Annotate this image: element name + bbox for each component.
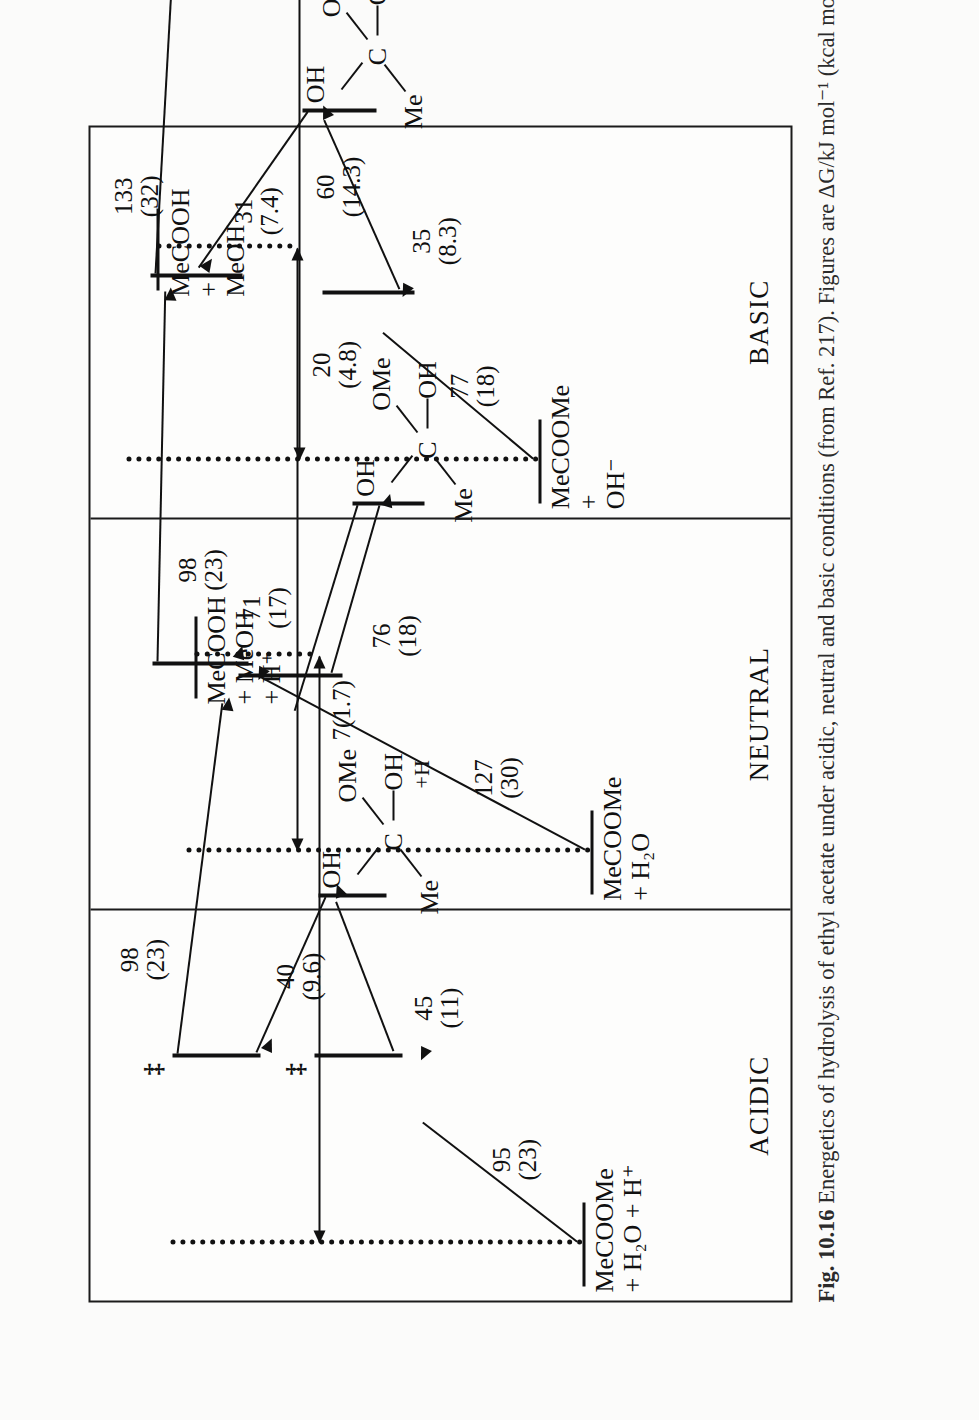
neutral-ts2-level bbox=[152, 661, 248, 665]
acidic-barrier-40: 40 (9.6) bbox=[272, 952, 323, 1000]
neutral-reactant-label: MeCOOMe + H₂O bbox=[598, 776, 653, 900]
basic-bond-c-oh bbox=[340, 61, 363, 89]
acidic-line-ts1-to-intermediate bbox=[335, 901, 394, 1051]
acidic-ts1-level bbox=[314, 1053, 402, 1057]
panel-neutral: MeCOOMe + H₂O 127 (30) 76 (18) bbox=[90, 519, 790, 911]
acidic-ts2-dagger: ‡ bbox=[140, 1063, 165, 1076]
figure-caption: Fig. 10.16 Energetics of hydrolysis of e… bbox=[812, 2, 839, 1302]
neutral-barrier-98: 98 (23) bbox=[174, 549, 225, 591]
panel-title-neutral: NEUTRAL bbox=[743, 519, 774, 909]
basic-reactant-label: MeCOOMe + OH⁻ bbox=[546, 384, 629, 508]
basic-bond-c-ome bbox=[345, 11, 368, 39]
figure-caption-text: Energetics of hydrolysis of ethyl acetat… bbox=[813, 0, 838, 1203]
basic-reactant-dotted-line bbox=[126, 456, 538, 461]
basic-barrier-31: 31 (7.4) bbox=[230, 187, 281, 235]
basic-overall-value: 60 (14.3) bbox=[312, 156, 363, 216]
acidic-barrier-95: 95 (23) bbox=[488, 1138, 539, 1180]
acidic-barrier-45: 45 (11) bbox=[410, 987, 461, 1028]
basic-ts2-level bbox=[150, 273, 242, 277]
basic-intermediate-c: C bbox=[362, 47, 392, 64]
neutral-barrier-76: 76 (18) bbox=[368, 615, 419, 657]
panel-acidic: MeCOOMe + H₂O + H⁺ ‡ 95 (23) 45 bbox=[90, 910, 790, 1300]
basic-intermediate-oh-top: OH bbox=[300, 65, 330, 103]
panel-title-basic: BASIC bbox=[743, 127, 774, 517]
basic-intermediate-o-minus: O– bbox=[362, 0, 392, 5]
acidic-arrow-reactant-to-ts1 bbox=[415, 1045, 431, 1062]
basic-bond-c-me bbox=[383, 63, 406, 91]
basic-barrier-77: 77 (18) bbox=[446, 365, 497, 407]
figure-page: MeCOOMe + H₂O + H⁺ ‡ 95 (23) 45 bbox=[0, 0, 979, 1420]
neutral-arrow-intermediate-to-ts2 bbox=[232, 644, 247, 660]
basic-barrier-35: 35 (8.3) bbox=[408, 217, 459, 265]
basic-arrow-intermediate-to-ts2 bbox=[199, 255, 216, 273]
neutral-reactant-dotted-line bbox=[186, 847, 590, 852]
basic-bond-c-ominus bbox=[376, 5, 378, 35]
panel-basic: MeCOOMe + OH⁻ 77 (18) 35 (8.3) bbox=[90, 127, 790, 519]
figure-frame: MeCOOMe + H₂O + H⁺ ‡ 95 (23) 45 bbox=[88, 125, 792, 1302]
acidic-barrier-98: 98 (23) bbox=[116, 938, 167, 980]
acidic-reactant-dotted-line bbox=[170, 1239, 582, 1244]
neutral-barrier-71: 71 (17) bbox=[238, 587, 289, 629]
basic-barrier-133: 133 (32) bbox=[110, 175, 161, 217]
neutral-barrier-127: 127 (30) bbox=[470, 757, 521, 799]
basic-intermediate-structure: OH C OMe O– Me bbox=[304, 0, 534, 125]
basic-overall-arrow bbox=[298, 0, 300, 459]
figure-number: Fig. 10.16 bbox=[813, 1209, 838, 1302]
basic-intermediate-ome: OMe bbox=[316, 0, 346, 17]
acidic-ts1-dagger: ‡ bbox=[282, 1063, 307, 1076]
panel-title-acidic: ACIDIC bbox=[743, 910, 774, 1300]
basic-intermediate-me: Me bbox=[398, 94, 428, 129]
neutral-line-reactant-to-ts1 bbox=[256, 674, 585, 850]
basic-arrow-reactant-to-ts1 bbox=[397, 282, 414, 299]
acidic-ts2-level bbox=[172, 1053, 260, 1057]
basic-line-ts2-to-product bbox=[154, 0, 177, 273]
acidic-reactant-label: MeCOOMe + H₂O + H⁺ bbox=[590, 1164, 645, 1292]
rotated-figure-stage: MeCOOMe + H₂O + H⁺ ‡ 95 (23) 45 bbox=[0, 0, 979, 1420]
